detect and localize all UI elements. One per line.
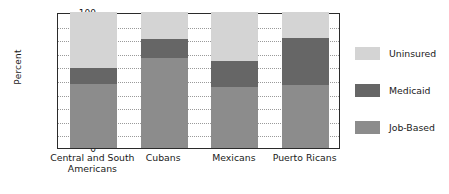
bar-segment	[70, 68, 117, 84]
bar-segment	[141, 12, 188, 39]
bar-segment	[141, 58, 188, 148]
x-axis-label: Puerto Ricans	[258, 152, 351, 163]
legend-swatch	[355, 121, 380, 134]
stacked-bar-chart: Percent 1009080706050403020100 Central a…	[0, 0, 449, 194]
bar-segment	[282, 12, 329, 38]
bar-group	[141, 12, 188, 148]
legend-item: Uninsured	[355, 44, 449, 63]
bar-segment	[141, 39, 188, 58]
plot-inner	[58, 14, 339, 148]
legend: UninsuredMedicaidJob-Based	[355, 44, 449, 155]
legend-label: Medicaid	[389, 85, 431, 96]
y-axis-title: Percent	[13, 27, 23, 107]
bar-segment	[282, 38, 329, 86]
bar-group	[70, 12, 117, 148]
bar-segment	[70, 84, 117, 148]
plot-area	[57, 13, 340, 149]
bar-segment	[211, 61, 258, 87]
legend-label: Uninsured	[389, 48, 436, 59]
legend-item: Job-Based	[355, 118, 449, 137]
bar-segment	[282, 85, 329, 148]
legend-item: Medicaid	[355, 81, 449, 100]
legend-swatch	[355, 84, 380, 97]
legend-label: Job-Based	[389, 122, 435, 133]
bar-segment	[211, 87, 258, 148]
bar-segment	[211, 12, 258, 61]
bar-group	[211, 12, 258, 148]
bar-segment	[70, 12, 117, 68]
bar-group	[282, 12, 329, 148]
legend-swatch	[355, 47, 380, 60]
